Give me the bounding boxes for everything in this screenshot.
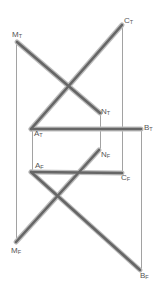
label-a-front: AF [35,162,44,171]
label-a-top: AT [34,130,43,139]
label-c-front: CF [121,174,130,183]
label-n-front: NF [101,151,110,160]
label-m-top: MT [12,31,22,40]
projection-diagram [0,0,164,291]
segment-mn-front [16,150,99,242]
label-b-top: BT [144,124,153,133]
label-m-front: MF [11,247,21,256]
segment-mn-top [17,42,100,113]
segment-ac-front [31,172,122,173]
projector-lines [17,25,142,270]
label-b-front: BF [140,272,149,281]
label-n-top: NT [101,108,110,117]
segment-ab-front [31,172,140,270]
label-c-top: CT [124,17,133,26]
